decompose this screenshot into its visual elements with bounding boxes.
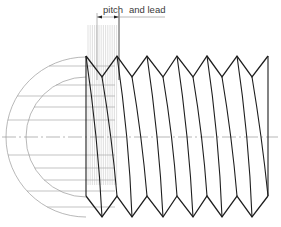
helix-root-line bbox=[132, 77, 147, 196]
arrowhead-right bbox=[114, 16, 119, 19]
helix-crest-line bbox=[147, 56, 163, 217]
screw-thread-diagram: pitch and lead bbox=[0, 0, 281, 227]
helix-crest-line bbox=[117, 56, 132, 217]
pitch-label: pitch bbox=[103, 5, 123, 15]
helix-root-line bbox=[193, 77, 207, 196]
helix-crest-line bbox=[86, 56, 102, 217]
helix-root-line bbox=[222, 77, 237, 196]
helix-root-line bbox=[252, 77, 268, 196]
helix-root-line bbox=[163, 77, 177, 196]
thread-bottom-profile bbox=[86, 196, 268, 217]
helix-root-line bbox=[102, 77, 117, 196]
helix-crest-line bbox=[207, 56, 222, 217]
thread-drawing bbox=[0, 0, 281, 227]
helix-crest-line bbox=[177, 56, 193, 217]
and-lead-label: and lead bbox=[129, 5, 165, 15]
helix-crest-line bbox=[237, 56, 252, 217]
arrowhead-left bbox=[97, 16, 102, 19]
